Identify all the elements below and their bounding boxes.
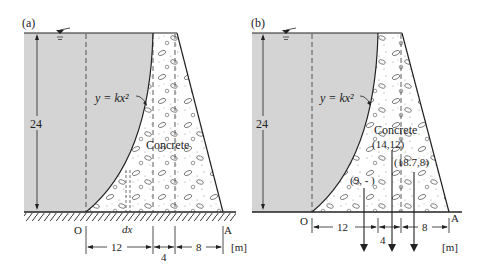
dim-12: 12 bbox=[111, 241, 122, 253]
dim-8: 8 bbox=[422, 221, 428, 233]
panel-b: (b) 24 y = kx² Concrete (14,12) (18.7,8)… bbox=[251, 16, 462, 253]
panel-a: (a) 24 y = kx² bbox=[22, 16, 247, 263]
centroid-label-triangle: (18.7,8) bbox=[394, 156, 429, 169]
dam-diagram: (a) 24 y = kx² bbox=[0, 0, 484, 277]
unit-label: [m] bbox=[442, 241, 458, 253]
dx-label: dx bbox=[122, 223, 133, 235]
centroid-label-rect: (14,12) bbox=[372, 138, 404, 151]
point-a-label: A bbox=[451, 212, 459, 224]
unit-label: [m] bbox=[231, 241, 247, 253]
dim-4: 4 bbox=[380, 234, 386, 246]
origin-label: O bbox=[300, 215, 308, 227]
height-label: 24 bbox=[30, 117, 42, 131]
curve-label: y = kx² bbox=[319, 91, 354, 105]
height-label: 24 bbox=[256, 117, 268, 131]
origin-label: O bbox=[74, 224, 82, 236]
panel-b-label: (b) bbox=[251, 16, 265, 30]
point-a-label: A bbox=[224, 224, 232, 236]
concrete-label: Concrete bbox=[374, 123, 417, 137]
panel-a-label: (a) bbox=[22, 16, 35, 30]
curve-label: y = kx² bbox=[94, 91, 129, 105]
concrete-label: Concrete bbox=[146, 138, 189, 152]
dim-12: 12 bbox=[337, 221, 348, 233]
centroid-label-parabolic: (9, - ) bbox=[350, 174, 375, 187]
ground-hatch bbox=[24, 213, 236, 221]
dim-8: 8 bbox=[196, 241, 202, 253]
dim-4: 4 bbox=[161, 251, 167, 263]
